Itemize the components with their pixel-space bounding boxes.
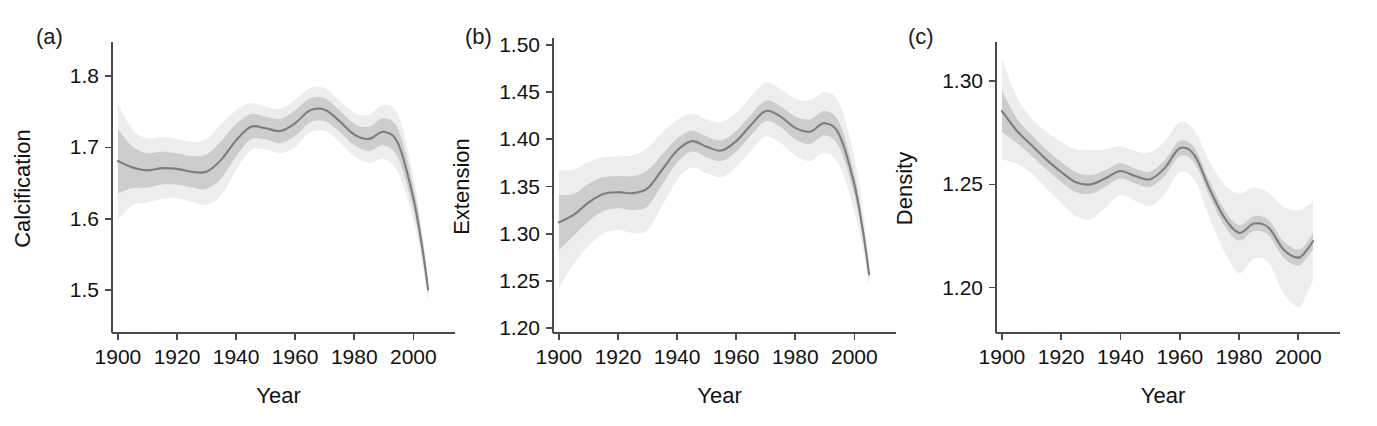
y-tick-label: 1.25 — [499, 269, 540, 292]
x-tick-label: 1920 — [1038, 345, 1085, 368]
y-axis-title: Extension — [449, 138, 474, 235]
x-tick-label: 1980 — [772, 345, 819, 368]
y-tick-label: 1.35 — [499, 175, 540, 198]
panel-calcification: 1.51.61.71.8190019201940196019802000Year… — [0, 0, 460, 426]
panel-label: (c) — [908, 24, 934, 49]
x-tick-label: 1980 — [331, 345, 378, 368]
y-tick-label: 1.30 — [499, 222, 540, 245]
panel-extension: 1.201.251.301.351.401.451.50190019201940… — [443, 0, 903, 426]
panel-label: (a) — [36, 24, 63, 49]
y-tick-label: 1.45 — [499, 80, 540, 103]
y-tick-label: 1.5 — [70, 278, 99, 301]
y-tick-label: 1.40 — [499, 127, 540, 150]
x-tick-label: 1940 — [1097, 345, 1144, 368]
x-tick-label: 1940 — [213, 345, 260, 368]
y-axis-title: Density — [892, 152, 917, 225]
panel-label: (b) — [465, 24, 492, 49]
confidence-band-outer — [1002, 58, 1313, 307]
x-axis-title: Year — [1141, 383, 1185, 408]
x-tick-label: 1960 — [272, 345, 319, 368]
x-tick-label: 1980 — [1216, 345, 1263, 368]
coral-growth-figure: 1.51.61.71.8190019201940196019802000Year… — [0, 0, 1377, 426]
x-tick-label: 1900 — [95, 345, 142, 368]
x-axis-title: Year — [697, 383, 741, 408]
y-tick-label: 1.30 — [942, 69, 983, 92]
x-tick-label: 1900 — [536, 345, 583, 368]
y-tick-label: 1.6 — [70, 207, 99, 230]
panel-density: 1.201.251.30190019201940196019802000Year… — [886, 0, 1377, 426]
y-tick-label: 1.7 — [70, 135, 99, 158]
x-tick-label: 2000 — [831, 345, 878, 368]
x-tick-label: 1920 — [595, 345, 642, 368]
x-tick-label: 1940 — [654, 345, 701, 368]
x-tick-label: 2000 — [390, 345, 437, 368]
y-axis-title: Calcification — [10, 129, 35, 248]
chart-extension: 1.201.251.301.351.401.451.50190019201940… — [443, 0, 903, 426]
chart-calcification: 1.51.61.71.8190019201940196019802000Year… — [0, 0, 460, 426]
y-tick-label: 1.20 — [942, 276, 983, 299]
x-tick-label: 1960 — [1156, 345, 1203, 368]
chart-density: 1.201.251.30190019201940196019802000Year… — [886, 0, 1377, 426]
y-tick-label: 1.8 — [70, 64, 99, 87]
y-tick-label: 1.20 — [499, 316, 540, 339]
x-tick-label: 1920 — [154, 345, 201, 368]
y-tick-label: 1.25 — [942, 172, 983, 195]
x-tick-label: 1900 — [979, 345, 1026, 368]
y-tick-label: 1.50 — [499, 33, 540, 56]
x-axis-title: Year — [256, 383, 300, 408]
x-tick-label: 2000 — [1275, 345, 1322, 368]
x-tick-label: 1960 — [713, 345, 760, 368]
